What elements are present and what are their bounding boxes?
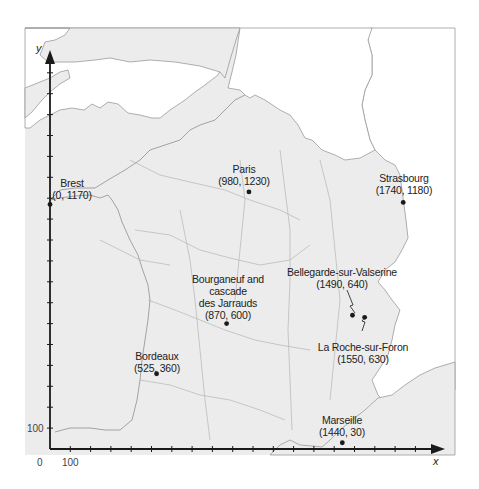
place-coords: (1490, 640): [287, 278, 397, 290]
place-coords: (1440, 30): [319, 426, 365, 438]
place-label-bellegarde: Bellegarde-sur-Valserine (1490, 640): [287, 266, 397, 290]
place-coords: (525, 360): [134, 362, 180, 374]
origin-label: 0: [37, 457, 43, 468]
y-axis-label: y: [36, 42, 42, 54]
place-label-bordeaux: Bordeaux (525, 360): [134, 350, 180, 374]
place-name-line: des Jarrauds: [192, 297, 264, 309]
place-name-line: cascade: [192, 285, 264, 297]
place-name-line: Bourganeuf and: [192, 273, 264, 285]
place-label-paris: Paris (980, 1230): [218, 163, 270, 187]
france-coordinate-map: y x 0 100 100 Brest (0, 1170) Paris (980…: [0, 0, 479, 489]
place-point-marker: [401, 200, 406, 205]
place-point-marker: [224, 321, 229, 326]
place-name: Paris: [218, 163, 270, 175]
x-axis-label: x: [433, 455, 439, 467]
place-point-marker: [350, 313, 355, 318]
y-tick-100-label: 100: [27, 423, 44, 434]
place-coords: (1550, 630): [318, 353, 408, 365]
place-name: Brest: [52, 177, 91, 189]
place-name: Strasbourg: [376, 172, 432, 184]
place-label-marseille: Marseille (1440, 30): [319, 414, 365, 438]
place-point-marker: [48, 202, 53, 207]
place-coords: (0, 1170): [52, 189, 91, 201]
x-tick-100-label: 100: [62, 457, 79, 468]
place-label-la-roche: La Roche-sur-Foron (1550, 630): [318, 341, 408, 365]
place-name: La Roche-sur-Foron: [318, 341, 408, 353]
place-label-bourganeuf: Bourganeuf and cascade des Jarrauds (870…: [192, 273, 264, 321]
place-coords: (870, 600): [192, 309, 264, 321]
map-canvas: [0, 0, 479, 489]
place-coords: (980, 1230): [218, 175, 270, 187]
place-label-brest: Brest (0, 1170): [52, 177, 91, 201]
place-name: Marseille: [319, 414, 365, 426]
place-coords: (1740, 1180): [376, 184, 432, 196]
place-name: Bordeaux: [134, 350, 180, 362]
place-point-marker: [340, 440, 345, 445]
place-point-marker: [247, 190, 252, 195]
place-label-strasbourg: Strasbourg (1740, 1180): [376, 172, 432, 196]
place-name: Bellegarde-sur-Valserine: [287, 266, 397, 278]
